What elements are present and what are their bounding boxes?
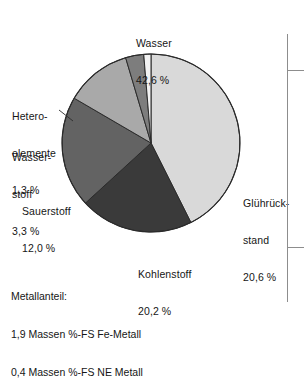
slice-label-sauerstoff-name: Sauerstoff (22, 205, 71, 217)
adjacent-table-rule-1 (288, 70, 304, 71)
slice-label-wasser-name: Wasser (136, 37, 172, 49)
slice-label-wasserstoff-name-1: Wasser- (12, 151, 51, 163)
slice-label-gluehrueckstand-name-2: stand (243, 234, 289, 246)
adjacent-table-edge (287, 34, 304, 302)
chart-footnote: Metallanteil: 1,9 Massen %-FS Fe-Metall … (11, 265, 143, 382)
footnote-line-2: 1,9 Massen %-FS Fe-Metall (11, 328, 143, 341)
adjacent-table-rule-2 (288, 247, 304, 248)
slice-label-kohlenstoff-value: 20,2 % (138, 305, 191, 317)
slice-label-kohlenstoff: Kohlenstoff 20,2 % (138, 243, 191, 342)
slice-label-gluehrueckstand-name-1: Glührück- (243, 197, 289, 209)
footnote-line-1: Metallanteil: (11, 290, 143, 303)
slice-label-heteroelemente-name-1: Hetero- (12, 110, 56, 122)
slice-label-gluehrueckstand: Glührück- stand 20,6 % (243, 172, 289, 308)
slice-label-wasser-value: 42,6 % (136, 74, 172, 86)
slice-label-wasser: Wasser 42,6 % (136, 12, 172, 111)
footnote-line-3: 0,4 Massen %-FS NE Metall (11, 366, 143, 379)
slice-label-gluehrueckstand-value: 20,6 % (243, 271, 289, 283)
slice-label-sauerstoff-value: 12,0 % (22, 242, 71, 254)
slice-label-kohlenstoff-name: Kohlenstoff (138, 268, 191, 280)
